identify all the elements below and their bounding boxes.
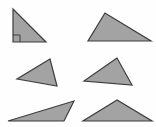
triangle-figure <box>0 0 156 127</box>
triangle-canvas <box>0 0 156 127</box>
